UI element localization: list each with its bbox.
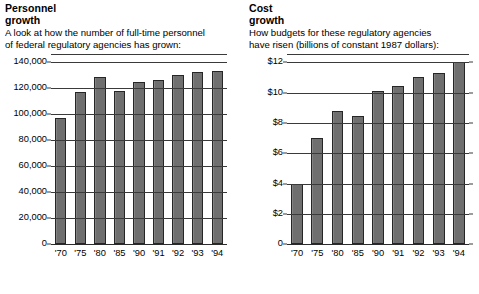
x-axis-tick-label: '91: [392, 249, 404, 258]
gridline-cost-growth-4: [287, 123, 469, 124]
top-frame-rule-personnel-growth: [51, 54, 227, 55]
bar: [392, 86, 404, 244]
y-axis-tick-mark: [47, 192, 51, 193]
y-axis-tick-label: 100,000: [13, 110, 47, 119]
plot-area-cost: 0$2$4$6$8$10$12'70'75'80'85'90'91'92'93'…: [287, 62, 469, 244]
y-axis-tick-label: $10: [267, 88, 283, 97]
x-axis-tick-label: '70: [291, 249, 303, 258]
x-axis-tick-label: '93: [192, 249, 204, 258]
bar: [433, 73, 445, 244]
y-axis-tick-label: $2: [273, 209, 283, 218]
gridline-cost-growth-2: [287, 184, 469, 185]
y-axis-tick-mark: [47, 166, 51, 167]
bar: [55, 118, 66, 244]
gridline-personnel-growth-2: [51, 192, 227, 193]
bar: [413, 77, 425, 245]
y-axis-tick-mark-right: [469, 92, 473, 93]
gridline-cost-growth-5: [287, 93, 469, 94]
gridline-personnel-growth-1: [51, 218, 227, 219]
y-axis-tick-label: $8: [273, 118, 283, 127]
bar: [133, 82, 144, 245]
panel-subtitle-personnel: A look at how the number of full-time pe…: [5, 26, 240, 50]
x-axis-tick-label: '92: [172, 249, 184, 258]
y-axis-tick-mark: [47, 244, 51, 245]
y-axis-tick-label: 20,000: [19, 214, 47, 223]
bar: [332, 111, 344, 244]
y-axis-tick-label: $4: [273, 179, 283, 188]
y-axis-tick-label: $12: [267, 58, 283, 67]
y-axis-tick-label: 60,000: [19, 162, 47, 171]
y-axis-tick-mark-right: [469, 183, 473, 184]
x-axis-tick-label: '75: [74, 249, 86, 258]
gridline-personnel-growth-6: [51, 88, 227, 89]
y-axis-tick-mark: [283, 183, 287, 184]
chart-personnel-growth: 020,00040,00060,00080,000100,000120,0001…: [5, 56, 235, 271]
y-axis-tick-mark: [47, 140, 51, 141]
x-axis-tick-label: '90: [133, 249, 145, 258]
bar: [153, 80, 164, 244]
x-axis-tick-label: '90: [372, 249, 384, 258]
y-axis-tick-mark: [283, 153, 287, 154]
y-axis-tick-mark: [47, 218, 51, 219]
y-axis-tick-mark: [283, 213, 287, 214]
x-axis-tick-label: '70: [55, 249, 67, 258]
figure-root: Personnel growth A look at how the numbe…: [0, 0, 479, 294]
gridline-cost-growth-0: [287, 244, 469, 245]
y-axis-tick-label: 80,000: [19, 136, 47, 145]
y-axis-tick-label: 140,000: [13, 58, 47, 67]
x-axis-tick-label: '94: [453, 249, 465, 258]
y-axis-tick-mark: [283, 62, 287, 63]
gridline-personnel-growth-5: [51, 114, 227, 115]
gridline-personnel-growth-4: [51, 140, 227, 141]
x-axis-tick-label: '92: [412, 249, 424, 258]
x-axis-tick-label: '94: [211, 249, 223, 258]
panel-title-cost: Cost growth: [249, 0, 479, 26]
y-axis-tick-label: 40,000: [19, 188, 47, 197]
gridline-cost-growth-3: [287, 153, 469, 154]
bar: [372, 91, 384, 244]
y-axis-tick-mark-right: [469, 62, 473, 63]
y-axis-tick-mark-right: [469, 213, 473, 214]
y-axis-tick-mark: [283, 92, 287, 93]
x-axis-tick-label: '80: [94, 249, 106, 258]
top-frame-rule-cost-growth: [287, 54, 469, 55]
gridline-personnel-growth-0: [51, 244, 227, 245]
y-axis-tick-mark: [47, 88, 51, 89]
y-axis-tick-mark-right: [469, 153, 473, 154]
x-axis-tick-label: '85: [352, 249, 364, 258]
y-axis-tick-mark: [47, 62, 51, 63]
gridline-cost-growth-6: [287, 62, 469, 63]
bar-series-personnel: [51, 62, 227, 244]
plot-area-personnel: 020,00040,00060,00080,000100,000120,0001…: [51, 62, 227, 244]
x-axis-tick-label: '80: [331, 249, 343, 258]
x-axis-tick-label: '93: [433, 249, 445, 258]
y-axis-tick-mark: [283, 122, 287, 123]
bar: [352, 116, 364, 244]
y-axis-tick-mark: [47, 114, 51, 115]
panel-cost-growth: Cost growth How budgets for these regula…: [240, 0, 479, 294]
y-axis-tick-mark: [283, 244, 287, 245]
y-axis-tick-mark-right: [469, 122, 473, 123]
panel-title-personnel: Personnel growth: [5, 0, 240, 26]
panel-subtitle-cost: How budgets for these regulatory agencie…: [249, 26, 479, 50]
y-axis-tick-mark-right: [469, 244, 473, 245]
gridline-personnel-growth-7: [51, 62, 227, 63]
chart-cost-growth: 0$2$4$6$8$10$12'70'75'80'85'90'91'92'93'…: [249, 56, 475, 271]
gridline-cost-growth-1: [287, 214, 469, 215]
x-axis-tick-label: '91: [152, 249, 164, 258]
y-axis-tick-label: $6: [273, 149, 283, 158]
gridline-personnel-growth-3: [51, 166, 227, 167]
x-axis-tick-label: '75: [311, 249, 323, 258]
y-axis-tick-label: 120,000: [13, 84, 47, 93]
x-axis-tick-label: '85: [113, 249, 125, 258]
panel-personnel-growth: Personnel growth A look at how the numbe…: [0, 0, 240, 294]
